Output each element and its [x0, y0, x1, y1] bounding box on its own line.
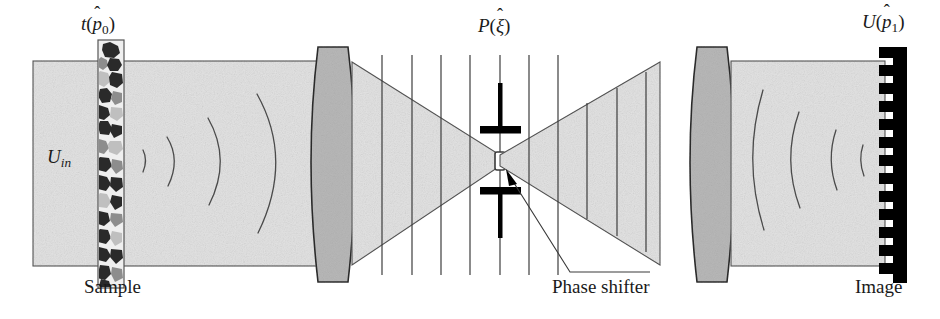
converging-beam	[352, 62, 500, 265]
lens-right	[690, 47, 734, 282]
caption-image: Image	[855, 277, 902, 296]
label-transmittance: t(p̂0)	[81, 14, 115, 36]
sample-element	[96, 40, 124, 291]
aperture-bar-lower-stem	[498, 193, 503, 238]
caption-phase-shifter: Phase shifter	[552, 277, 650, 296]
lens-right-body	[690, 47, 734, 282]
input-beam-region	[33, 61, 333, 266]
label-input-field: Uin	[47, 147, 71, 169]
diverging-beam	[500, 62, 660, 265]
diverging-cone	[500, 62, 660, 265]
aperture-bar-upper-flange	[480, 126, 521, 134]
input-beam-slab	[33, 61, 333, 266]
detector-bar	[893, 47, 907, 283]
figure-canvas: t(p̂0) Uin P(ξ̂) U(p̂1) Sample Image Pha…	[0, 0, 940, 319]
output-beam-slab	[731, 61, 885, 266]
converging-cone	[352, 62, 500, 265]
output-beam-region	[731, 61, 885, 266]
label-output-field: U(p̂1)	[862, 12, 905, 34]
aperture-bar-upper-stem	[498, 83, 503, 128]
sample-grain	[96, 42, 123, 291]
label-pupil-function: P(ξ̂)	[478, 16, 510, 35]
lens-left-body	[311, 47, 355, 282]
caption-sample: Sample	[84, 277, 141, 296]
lens-left	[311, 47, 355, 282]
optical-diagram-svg	[0, 0, 940, 319]
